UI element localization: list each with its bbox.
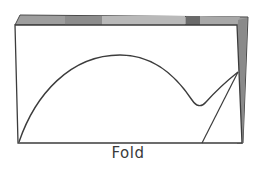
front-sheet bbox=[15, 25, 242, 143]
fold-label: Fold bbox=[0, 144, 256, 162]
